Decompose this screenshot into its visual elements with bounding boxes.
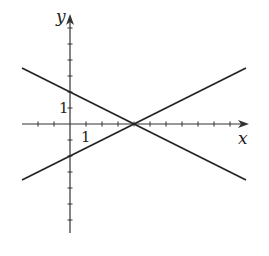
y-axis-label: y [55,6,66,26]
y-tick-label-1: 1 [59,99,69,117]
x-tick-label-1: 1 [81,128,91,146]
x-axis-label: x [238,128,248,148]
coordinate-plane: x y 1 1 [0,0,269,256]
